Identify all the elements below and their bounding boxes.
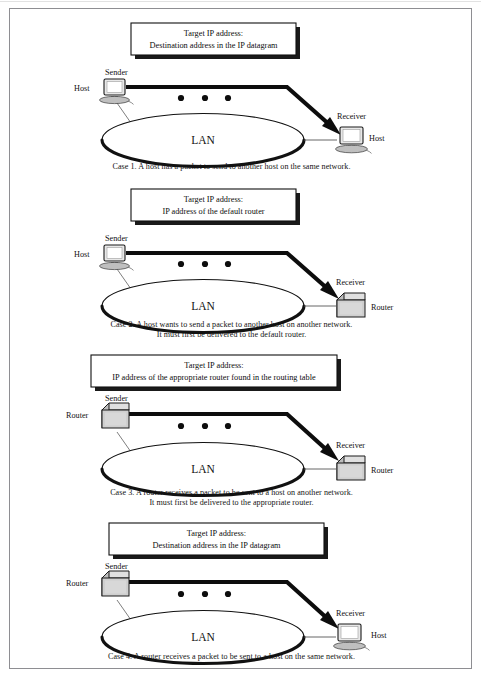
case-3-box-line2: IP address of the appropriate router fou… [112,373,316,382]
case-3-diagram: Target IP address: IP address of the app… [0,348,463,498]
case-1-caption: Case 1. A host has a packet to send to a… [0,162,463,173]
case-1-box-line1: Target IP address: [184,29,243,38]
case-2-receiver-side-label: Router [371,303,394,312]
case-2-sender-drop-line [117,269,131,289]
case-3-target-box [91,355,337,387]
case-3-sender-router-icon [102,403,129,428]
case-3-dot-3 [225,423,231,429]
case-1-box-line2: Destination address in the IP datagram [149,41,278,50]
case-3-caption-line2: It must first be delivered to the approp… [0,498,463,509]
case-4-dot-2 [202,591,208,597]
figure-page: Target IP address: Destination address i… [0,0,481,678]
case-4-caption: Case 4. A router receives a packet to be… [0,652,463,663]
case-4-sender-router-icon [102,571,129,596]
case-4-lan-label: LAN [191,631,215,643]
case-4-diagram: Target IP address: Destination address i… [0,516,463,661]
case-3-receiver-label: Receiver [336,441,365,450]
case-2-diagram: Target IP address: IP address of the def… [0,184,463,334]
case-3-sender-drop-line [117,432,131,452]
case-3-dot-2 [202,423,208,429]
case-2-target-box [131,189,296,221]
case-3-sender-side-label: Router [66,411,89,420]
case-4-target-box [109,523,324,555]
case-2-sender-side-label: Host [74,250,90,259]
case-4-dot-1 [178,591,184,597]
case-4-sender-drop-line [117,600,131,620]
case-4-sender-label: Sender [105,562,128,571]
case-1-sender-label: Sender [105,68,128,77]
case-3-sender-label: Sender [105,394,128,403]
case-4-receiver-label: Receiver [336,609,365,618]
case-2-lan-label: LAN [191,300,215,312]
case-4-box-line1: Target IP address: [187,529,246,538]
case-1-receiver-side-label: Host [369,134,385,143]
case-1-panel: Target IP address: Destination address i… [0,14,463,174]
case-3-lan-label: LAN [191,463,215,475]
case-1-sender-drop-line [117,103,131,123]
case-4-box-line2: Destination address in the IP datagram [152,541,281,550]
case-1-sender-side-label: Host [74,84,90,93]
case-4-receiver-side-label: Host [371,631,387,640]
case-3-caption: Case 3. A router receives a packet to be… [0,488,463,499]
case-2-sender-label: Sender [105,234,128,243]
case-4-receiver-host-icon [334,624,370,650]
case-2-dot-2 [202,261,208,267]
case-2-sender-host-icon [100,245,134,270]
case-3-receiver-side-label: Router [371,466,394,475]
case-3-receiver-router-icon [337,456,365,480]
case-1-diagram: Target IP address: Destination address i… [0,14,463,174]
top-hairline [0,1,481,2]
case-2-box-line1: Target IP address: [184,195,243,204]
case-3-dot-1 [178,423,184,429]
case-1-dot-2 [202,95,208,101]
case-2-panel: Target IP address: IP address of the def… [0,184,463,334]
case-1-target-box [131,23,296,55]
case-2-dot-3 [225,261,231,267]
case-2-caption-line2: It must first be delivered to the defaul… [0,330,463,341]
case-4-sender-side-label: Router [66,579,89,588]
case-1-lan-label: LAN [191,134,215,146]
case-3-panel: Target IP address: IP address of the app… [0,348,463,498]
case-1-sender-host-icon [100,79,134,104]
case-1-receiver-host-icon [336,127,372,153]
case-1-receiver-label: Receiver [337,112,366,121]
case-2-caption: Case 2. A host wants to send a packet to… [0,320,463,331]
case-2-receiver-label: Receiver [336,278,365,287]
case-4-panel: Target IP address: Destination address i… [0,516,463,661]
case-2-receiver-router-icon [337,293,365,317]
case-3-box-line1: Target IP address: [184,361,243,370]
case-4-dot-3 [225,591,231,597]
case-2-dot-1 [178,261,184,267]
case-1-dot-3 [225,95,231,101]
case-2-box-line2: IP address of the default router [162,207,264,216]
case-1-dot-1 [178,95,184,101]
